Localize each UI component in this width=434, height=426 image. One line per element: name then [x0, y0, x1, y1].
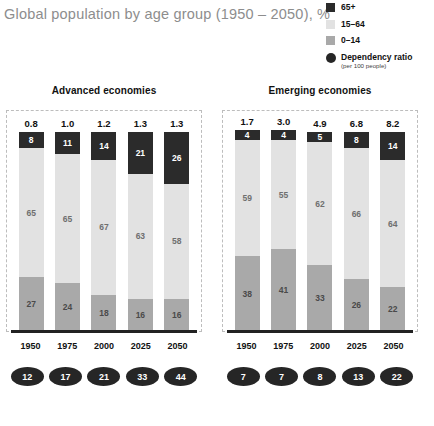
- bar-column: 6.886626: [344, 111, 369, 331]
- bar-segment-15-64-value: 62: [307, 199, 332, 208]
- dependency-ratios-emerging: 7781322: [222, 367, 418, 386]
- bar-population-label: 4.9: [313, 119, 326, 129]
- bar-segment-65plus: 26: [164, 132, 189, 184]
- bar-segment-0-14: 18: [91, 295, 116, 331]
- bar-segment-0-14: 16: [128, 299, 153, 331]
- page-title: Global population by age group (1950 – 2…: [4, 6, 330, 22]
- dependency-ratio-badge: 13: [342, 367, 375, 386]
- bar-segment-0-14-value: 27: [19, 300, 44, 309]
- dependency-ratio-badge: 44: [164, 367, 197, 386]
- legend-item-15-64: 15–64: [326, 19, 432, 29]
- x-axis-label: 1950: [234, 341, 259, 351]
- bar-segment-0-14-value: 18: [91, 308, 116, 317]
- panel-emerging-economies: Emerging economies 1.7459383.0455414.956…: [222, 85, 418, 386]
- legend-swatch-0-14: [326, 36, 335, 45]
- bar-population-label: 1.7: [241, 117, 254, 127]
- bar-segment-65plus: 14: [380, 132, 405, 160]
- bar-segment-65plus-value: 26: [164, 153, 189, 162]
- bar-segment-0-14-value: 16: [128, 311, 153, 320]
- legend-item-dependency-ratio: Dependency ratio (per 100 people): [326, 52, 432, 70]
- bar-segment-0-14-value: 26: [344, 301, 369, 310]
- legend-item-65plus: 65+: [326, 2, 432, 12]
- x-axis-label: 2000: [307, 341, 332, 351]
- legend-label-dependency-ratio-sub: (per 100 people): [341, 62, 412, 70]
- dependency-ratio-badge: 21: [87, 367, 120, 386]
- bar-stack: 45938: [235, 130, 260, 331]
- bar-population-label: 3.0: [277, 117, 290, 127]
- x-axis-label: 2025: [344, 341, 369, 351]
- bar-segment-0-14: 26: [344, 279, 369, 331]
- bar-segment-0-14-value: 41: [271, 286, 296, 295]
- bar-segment-15-64: 59: [235, 140, 260, 256]
- bar-column: 1.3265816: [164, 111, 189, 331]
- dependency-ratio-badge: 22: [380, 367, 413, 386]
- x-axis-label: 1975: [55, 341, 80, 351]
- bar-population-label: 1.3: [170, 119, 183, 129]
- bar-column: 1.745938: [235, 111, 260, 331]
- bar-segment-65plus: 4: [235, 130, 260, 140]
- bar-segment-65plus-value: 14: [380, 141, 405, 150]
- bar-segment-15-64-value: 67: [91, 223, 116, 232]
- bar-column: 0.886527: [19, 111, 44, 331]
- bar-segment-65plus: 21: [128, 132, 153, 174]
- bar-segment-65plus-value: 8: [344, 135, 369, 144]
- x-axis-label: 1975: [271, 341, 296, 351]
- bar-segment-65plus: 14: [91, 132, 116, 160]
- bar-segment-15-64: 58: [164, 184, 189, 299]
- legend-label-dependency-ratio-main: Dependency ratio: [341, 52, 412, 62]
- bar-population-label: 8.2: [386, 119, 399, 129]
- bar-segment-0-14: 41: [271, 249, 296, 331]
- bar-population-label: 1.0: [61, 119, 74, 129]
- bar-segment-15-64: 62: [307, 142, 332, 265]
- bar-segment-65plus: 8: [19, 132, 44, 148]
- bar-column: 1.3216316: [128, 111, 153, 331]
- bar-segment-0-14: 16: [164, 299, 189, 331]
- bar-segment-15-64: 66: [344, 148, 369, 279]
- bar-segment-65plus-value: 4: [235, 130, 260, 139]
- bar-stack: 265816: [164, 132, 189, 331]
- dependency-ratio-badge: 12: [11, 367, 44, 386]
- bar-column: 3.045541: [271, 111, 296, 331]
- bar-segment-0-14-value: 38: [235, 289, 260, 298]
- x-axis-label: 2050: [381, 341, 406, 351]
- dependency-ratios-advanced: 1217213344: [6, 367, 202, 386]
- bar-stack: 216316: [128, 132, 153, 331]
- bar-segment-65plus-value: 4: [271, 130, 296, 139]
- legend-swatch-15-64: [326, 20, 335, 29]
- x-axis-label: 2050: [165, 341, 190, 351]
- legend-swatch-65plus: [326, 3, 335, 12]
- bar-stack: 116524: [55, 132, 80, 331]
- bar-segment-65plus-value: 11: [55, 138, 80, 147]
- bar-stack: 45541: [271, 130, 296, 331]
- dependency-ratio-badge: 7: [227, 367, 260, 386]
- bars-row-emerging: 1.7459383.0455414.9562336.8866268.214642…: [223, 111, 417, 331]
- dependency-ratio-badge: 17: [49, 367, 82, 386]
- bar-population-label: 6.8: [350, 119, 363, 129]
- bar-segment-0-14: 33: [307, 265, 332, 331]
- bar-segment-0-14-value: 24: [55, 303, 80, 312]
- dependency-ratio-badge: 8: [303, 367, 336, 386]
- bar-column: 1.2146718: [91, 111, 116, 331]
- bar-segment-65plus-value: 14: [91, 142, 116, 151]
- panel-advanced-economies: Advanced economies 0.8865271.01165241.21…: [6, 85, 202, 386]
- bar-stack: 146718: [91, 132, 116, 331]
- bar-column: 1.0116524: [55, 111, 80, 331]
- bar-segment-15-64-value: 65: [55, 214, 80, 223]
- x-axis-label: 2025: [128, 341, 153, 351]
- bar-segment-0-14-value: 16: [164, 311, 189, 320]
- bar-segment-15-64-value: 66: [344, 209, 369, 218]
- axis-line-emerging: [227, 330, 413, 333]
- bar-segment-65plus-value: 5: [307, 132, 332, 141]
- bar-segment-0-14-value: 22: [380, 305, 405, 314]
- legend: 65+ 15–64 0–14 Dependency ratio (per 100…: [326, 2, 432, 76]
- panel-title-advanced: Advanced economies: [6, 85, 202, 96]
- legend-label-15-64: 15–64: [341, 19, 365, 29]
- bar-population-label: 1.2: [97, 119, 110, 129]
- plot-frame-advanced: 0.8865271.01165241.21467181.32163161.326…: [6, 110, 202, 332]
- bar-segment-15-64: 65: [55, 154, 80, 283]
- bar-segment-0-14: 38: [235, 256, 260, 331]
- bar-segment-15-64-value: 65: [19, 208, 44, 217]
- bar-stack: 56233: [307, 132, 332, 331]
- legend-label-dependency-ratio: Dependency ratio (per 100 people): [341, 52, 412, 70]
- bar-population-label: 1.3: [134, 119, 147, 129]
